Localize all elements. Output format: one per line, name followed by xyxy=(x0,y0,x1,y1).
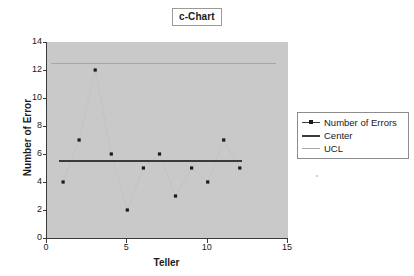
data-point-marker xyxy=(206,180,209,183)
data-point-marker xyxy=(222,138,225,141)
x-axis-tick-mark xyxy=(46,239,47,243)
y-axis-title: Number of Error xyxy=(22,58,33,218)
x-axis-tick-label: 0 xyxy=(31,243,61,252)
chart-title: c-Chart xyxy=(172,8,222,26)
data-point-marker xyxy=(78,138,81,141)
data-point-marker xyxy=(238,166,241,169)
data-point-marker xyxy=(158,152,161,155)
y-axis-tick-mark xyxy=(43,98,47,99)
data-point-marker xyxy=(126,208,129,211)
y-axis-tick-mark xyxy=(43,210,47,211)
data-point-marker xyxy=(142,166,145,169)
chart-legend: Number of Errors Center UCL xyxy=(297,112,409,159)
x-axis-tick-mark xyxy=(126,239,127,243)
legend-label-ucl: UCL xyxy=(324,143,343,154)
y-axis-tick-mark xyxy=(43,42,47,43)
legend-label-series: Number of Errors xyxy=(324,117,397,128)
x-axis-title: Teller xyxy=(46,257,287,268)
y-axis-tick-mark xyxy=(43,154,47,155)
series-connector-line xyxy=(63,70,240,210)
y-axis-tick-mark xyxy=(43,70,47,71)
y-axis-tick-label: 0 xyxy=(20,233,42,242)
y-axis-tick-mark xyxy=(43,182,47,183)
legend-marker-center-icon xyxy=(301,130,321,141)
c-chart-figure: c-Chart 02468101214 Teller Number of Err… xyxy=(0,0,414,276)
x-axis-tick-mark xyxy=(207,239,208,243)
plot-canvas xyxy=(47,42,288,238)
legend-item-series[interactable]: Number of Errors xyxy=(301,116,404,129)
y-axis-tick-mark xyxy=(43,126,47,127)
legend-label-center: Center xyxy=(324,130,353,141)
legend-item-center[interactable]: Center xyxy=(301,129,404,142)
x-axis-tick-label: 5 xyxy=(111,243,141,252)
legend-item-ucl[interactable]: UCL xyxy=(301,142,404,155)
x-axis-tick-mark xyxy=(287,239,288,243)
legend-marker-series-icon xyxy=(301,117,321,128)
data-point-marker xyxy=(62,180,65,183)
data-point-marker xyxy=(190,166,193,169)
data-point-marker xyxy=(174,194,177,197)
x-axis-tick-label: 10 xyxy=(192,243,222,252)
y-axis-tick-label: 14 xyxy=(20,37,42,46)
x-axis-tick-label: 15 xyxy=(272,243,302,252)
data-point-marker xyxy=(110,152,113,155)
legend-marker-ucl-icon xyxy=(301,143,321,154)
data-point-marker xyxy=(94,68,97,71)
plot-area xyxy=(46,42,288,239)
image-artifact-speck xyxy=(316,175,318,177)
